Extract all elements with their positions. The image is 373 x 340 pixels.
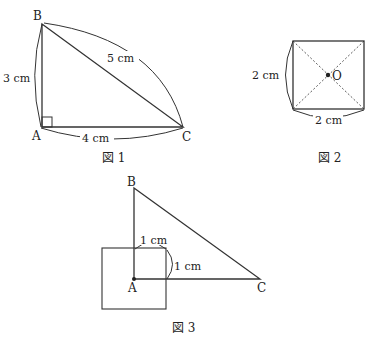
brace-right bbox=[167, 250, 173, 279]
brace-ab bbox=[35, 24, 42, 127]
fig1-measure-ac: 4 cm bbox=[82, 132, 110, 145]
triangle-abc bbox=[42, 24, 183, 127]
fig1-label-a: A bbox=[31, 129, 41, 143]
fig3-label-a: A bbox=[127, 281, 137, 295]
fig3-measure-top: 1 cm bbox=[140, 234, 168, 247]
fig3-caption: 図 3 bbox=[172, 321, 195, 335]
figure-3 bbox=[102, 188, 260, 309]
fig1-label-b: B bbox=[33, 9, 42, 23]
figure-2 bbox=[286, 41, 365, 118]
fig2-label-o: O bbox=[332, 69, 342, 83]
fig1-measure-ab: 3 cm bbox=[3, 72, 31, 85]
fig3-label-c: C bbox=[257, 281, 266, 295]
fig2-measure-width: 2 cm bbox=[315, 114, 343, 127]
figures-canvas: B A C 3 cm 5 cm 4 cm 図 1 O 2 cm 2 cm 図 2… bbox=[0, 0, 373, 340]
figure-1 bbox=[35, 23, 183, 139]
fig1-label-c: C bbox=[182, 130, 191, 144]
fig2-measure-height: 2 cm bbox=[252, 69, 280, 82]
brace-height bbox=[286, 41, 294, 109]
fig2-caption: 図 2 bbox=[318, 151, 341, 165]
fig3-measure-right: 1 cm bbox=[174, 260, 202, 273]
fig3-label-b: B bbox=[127, 175, 136, 189]
center-point-o bbox=[326, 73, 330, 77]
fig1-measure-bc: 5 cm bbox=[107, 52, 135, 65]
fig1-caption: 図 1 bbox=[102, 151, 125, 165]
right-angle-marker bbox=[42, 117, 52, 127]
